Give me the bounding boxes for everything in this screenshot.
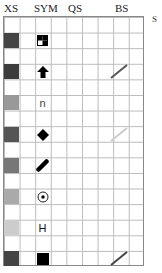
swatch-7 [4, 220, 19, 235]
swatch-6 [4, 189, 19, 204]
header-qs: QS [68, 2, 82, 14]
filled-square-icon [35, 251, 50, 266]
n-glyph-icon: n [35, 95, 50, 110]
swatch-8 [4, 251, 19, 266]
circle-dot-icon [35, 189, 50, 204]
bs-slash-8 [110, 251, 128, 266]
checker-square-icon [35, 33, 50, 48]
bs-slash-2 [110, 64, 128, 79]
diamond-icon [35, 127, 50, 142]
header-xs: XS [4, 2, 18, 14]
swatch-1 [4, 33, 19, 48]
swatch-5 [4, 158, 19, 173]
side-label: S [152, 14, 157, 24]
header-bs: BS [115, 2, 128, 14]
swatch-3 [4, 95, 19, 110]
bs-slash-4 [110, 127, 128, 142]
swatch-4 [4, 127, 19, 142]
capsule-icon [35, 158, 50, 173]
h-glyph-icon: H [35, 220, 50, 235]
header-sym: SYM [34, 2, 58, 14]
up-arrow-icon [35, 64, 50, 79]
swatch-2 [4, 64, 19, 79]
